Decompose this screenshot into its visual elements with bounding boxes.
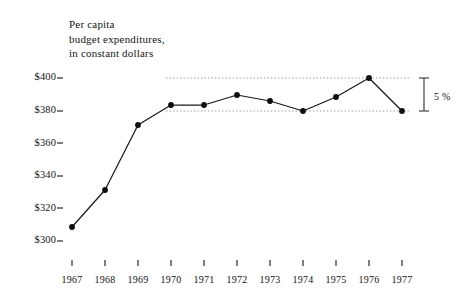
data-point-1974 (300, 108, 306, 114)
chart-figure: Per capita budget expenditures, in const… (0, 0, 473, 298)
range-bracket-icon (419, 78, 429, 111)
x-axis-ticks (72, 260, 402, 266)
data-point-1972 (234, 92, 240, 98)
data-point-1969 (135, 122, 141, 128)
data-line (72, 78, 402, 227)
plot-area (0, 0, 473, 298)
data-point-1968 (102, 187, 108, 193)
data-point-1975 (333, 94, 339, 100)
y-axis-ticks (57, 78, 63, 241)
data-point-1976 (366, 75, 372, 81)
data-point-1973 (267, 98, 273, 104)
data-point-1977 (399, 108, 405, 114)
data-point-markers (69, 75, 405, 230)
data-point-1971 (201, 102, 207, 108)
data-point-1967 (69, 224, 75, 230)
data-point-1970 (168, 102, 174, 108)
